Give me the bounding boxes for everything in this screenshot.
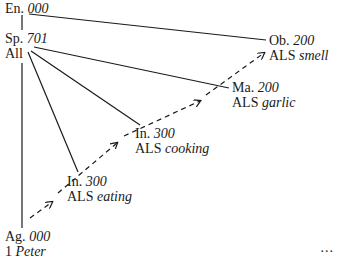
edge-sp-in2 <box>28 52 78 172</box>
node-ag: Ag. 000 1 Peter <box>5 229 50 258</box>
node-ma: Ma. 200 ALS garlic <box>232 80 295 110</box>
node-sp: Sp. 701 All <box>5 31 48 61</box>
arrow-ag-in2 <box>30 202 52 218</box>
node-ob: Ob. 200 ALS smell <box>269 33 329 63</box>
node-in-cooking: In. 300 ALS cooking <box>135 126 209 156</box>
edge-sp-ma <box>34 47 229 88</box>
edge-en-ob <box>29 14 266 40</box>
edge-sp-in1 <box>31 51 140 125</box>
node-in-eating: In. 300 ALS eating <box>67 174 132 204</box>
node-en: En. 000 <box>5 1 49 16</box>
ellipsis: ... <box>321 240 335 256</box>
